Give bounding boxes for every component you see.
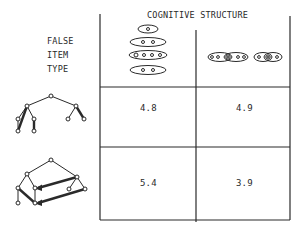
row-label-line-2: ITEM <box>47 50 68 60</box>
overlapping-ellipses-icon <box>208 53 282 62</box>
nested-ellipses-icon <box>129 25 167 75</box>
tree-diagram-icon <box>16 94 86 133</box>
cell-r1-c2: 4.9 <box>236 103 253 113</box>
cell-r2-c1: 5.4 <box>140 178 157 188</box>
row-label-line-1: FALSE <box>47 36 74 46</box>
tree-with-cross-links-icon <box>16 158 87 206</box>
cell-r2-c2: 3.9 <box>236 178 253 188</box>
column-group-header: COGNITIVE STRUCTURE <box>147 10 248 20</box>
cell-r1-c1: 4.8 <box>140 103 157 113</box>
diagram-canvas <box>0 0 308 232</box>
row-label-line-3: TYPE <box>47 64 68 74</box>
